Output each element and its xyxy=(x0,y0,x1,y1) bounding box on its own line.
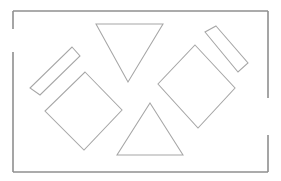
drawing-canvas xyxy=(0,0,281,181)
triangle-pointing-up xyxy=(117,103,183,155)
shape-group xyxy=(30,24,248,155)
shapes-figure xyxy=(0,0,281,181)
triangle-pointing-down xyxy=(96,24,163,82)
diamond-right xyxy=(158,45,235,128)
diamond-left xyxy=(45,72,122,150)
